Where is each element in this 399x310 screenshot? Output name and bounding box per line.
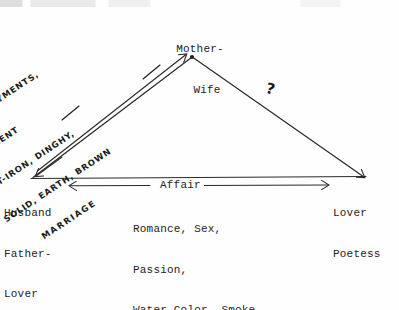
list-item: Passion, xyxy=(133,264,255,278)
right-vertex-label: Lover Poetess xyxy=(333,180,381,288)
apex-label: Mother- Wife xyxy=(160,16,240,124)
right-vertex-line1: Lover xyxy=(333,207,381,221)
list-item: Romance, Sex, xyxy=(133,223,255,237)
right-vertex-line2: Poetess xyxy=(333,248,381,262)
scanned-page: Mother- Wife Husband Father- Lover Lover… xyxy=(0,0,399,310)
apex-label-line2: Wife xyxy=(174,84,240,98)
list-item: Water-Color, Smoke xyxy=(133,304,255,310)
affair-item-list: Romance, Sex, Passion, Water-Color, Smok… xyxy=(133,196,255,310)
apex-label-line1: Mother- xyxy=(160,43,240,57)
